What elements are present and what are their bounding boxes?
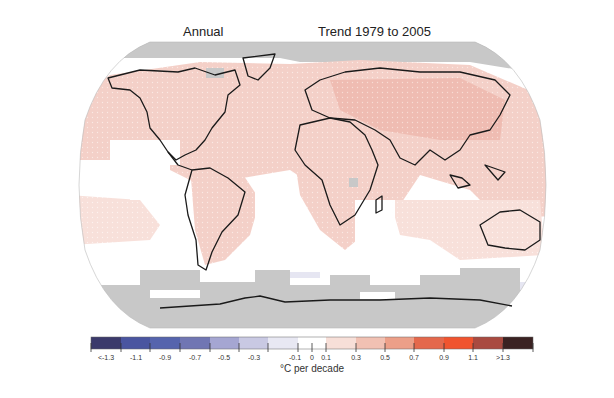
colorbar-tick-label: -0.5 — [218, 354, 230, 361]
colorbar-tick-label: 0 — [310, 354, 314, 361]
colorbar-unit-label: °C per decade — [280, 363, 344, 374]
colorbar-tick-label: -1.1 — [130, 354, 142, 361]
colorbar-tick-label: 0.5 — [380, 354, 390, 361]
colorbar-tick-label: -0.7 — [189, 354, 201, 361]
colorbar-tick-label: -0.9 — [159, 354, 171, 361]
colorbar-tick-label: 0.9 — [439, 354, 449, 361]
colorbar-tick-label: 0.3 — [351, 354, 361, 361]
colorbar-tick-label: 0.7 — [409, 354, 419, 361]
colorbar-tick-label: 0.1 — [321, 354, 331, 361]
colorbar-tick-label: -0.1 — [289, 354, 301, 361]
colorbar-tick-label: >1.3 — [496, 354, 510, 361]
colorbar-tick-label: 1.1 — [468, 354, 478, 361]
colorbar-tick-label: -0.3 — [248, 354, 260, 361]
colorbar-tick-label: <-1.3 — [98, 354, 114, 361]
colorbar — [0, 0, 614, 398]
